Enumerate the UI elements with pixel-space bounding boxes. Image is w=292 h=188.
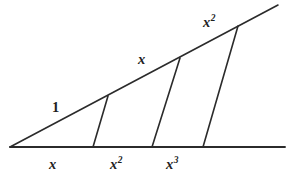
transversal-2 [152,58,180,147]
diagram-canvas: 1 x x2 x x2 x3 [0,0,292,188]
label-hypotenuse-segment-3-base: x [203,14,210,30]
label-base-segment-2: x2 [110,156,123,171]
label-hypotenuse-segment-2-base: x [138,51,145,67]
label-base-segment-2-base: x [110,156,117,172]
label-hypotenuse-segment-2: x [138,51,146,66]
geometry-figure [0,0,292,188]
label-hypotenuse-segment-3-exponent: 2 [211,13,216,23]
label-base-segment-1-base: x [49,156,56,172]
label-base-segment-3: x3 [166,156,179,171]
transversal-1 [93,96,108,147]
label-base-segment-3-exponent: 3 [174,155,179,165]
label-hypotenuse-segment-3: x2 [203,14,216,29]
label-base-segment-2-exponent: 2 [118,155,123,165]
label-hypotenuse-segment-1: 1 [52,100,59,115]
label-base-segment-3-base: x [166,156,173,172]
label-base-segment-1: x [49,156,57,171]
transversal-3 [203,26,238,147]
